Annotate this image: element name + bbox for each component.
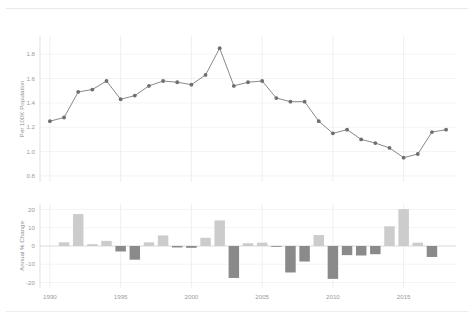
xtick-label: 1995 (114, 293, 128, 300)
xtick-label: 1990 (43, 293, 57, 300)
line-data-point (133, 94, 137, 98)
bar-ytick-label: -20 (26, 279, 36, 286)
line-data-point (105, 79, 109, 83)
line-data-point (345, 128, 349, 132)
line-data-point (359, 138, 363, 142)
bar-rect (285, 246, 295, 272)
bar-rect (87, 244, 97, 246)
bar-rect (342, 246, 352, 255)
bar-rect (144, 242, 154, 246)
bar-rect (299, 246, 309, 262)
xtick-label: 2015 (397, 293, 411, 300)
line-ytick-label: 1.6 (26, 75, 35, 82)
bar-ytick-label: 20 (28, 206, 35, 213)
line-data-point (90, 88, 94, 92)
bar-rect (398, 209, 408, 246)
line-data-point (289, 100, 293, 104)
line-data-point (317, 119, 321, 123)
xtick-label: 2005 (255, 293, 269, 300)
figure-container: 0.81.01.21.41.61.8Per 100K Population-20… (0, 0, 474, 320)
line-data-point (303, 100, 307, 104)
line-data-point (402, 156, 406, 160)
line-data-point (444, 128, 448, 132)
line-data-point (62, 116, 66, 120)
bar-rect (115, 246, 125, 251)
bar-rect (172, 246, 182, 247)
bar-y-axis-title: Annual % Change (18, 221, 25, 271)
line-data-point (76, 90, 80, 94)
bottom-divider-rule (6, 311, 468, 312)
line-ytick-label: 1.4 (26, 99, 35, 106)
line-data-point (274, 96, 278, 100)
bar-rect (384, 226, 394, 246)
line-data-point (416, 152, 420, 156)
line-ytick-label: 1.2 (26, 123, 35, 130)
line-ytick-label: 1.8 (26, 50, 35, 57)
line-data-point (430, 130, 434, 134)
bar-rect (130, 246, 140, 260)
top-divider-rule (6, 8, 468, 9)
bar-rect (59, 242, 69, 246)
line-data-point (246, 80, 250, 84)
line-y-axis-title: Per 100K Population (18, 80, 25, 137)
bar-rect (214, 220, 224, 246)
xtick-label: 2000 (185, 293, 199, 300)
bar-rect (158, 235, 168, 246)
bar-rect (427, 246, 437, 257)
line-data-point (204, 73, 208, 77)
line-data-point (232, 84, 236, 88)
line-ytick-label: 1.0 (26, 148, 35, 155)
bar-rect (186, 246, 196, 248)
line-data-point (373, 141, 377, 145)
bar-rect (413, 243, 423, 246)
line-data-point (190, 83, 194, 87)
line-data-point (161, 79, 165, 83)
line-data-point (175, 80, 179, 84)
line-ytick-label: 0.8 (26, 172, 35, 179)
line-data-point (119, 97, 123, 101)
bar-rect (101, 241, 111, 246)
bar-rect (356, 246, 366, 255)
bar-rect (229, 246, 239, 278)
bar-rect (200, 238, 210, 246)
line-data-point (331, 131, 335, 135)
bar-ytick-label: -10 (26, 260, 36, 267)
bar-ytick-label: 10 (28, 224, 35, 231)
bar-rect (328, 246, 338, 279)
bar-rect (314, 235, 324, 246)
line-data-point (260, 79, 264, 83)
line-data-point (388, 146, 392, 150)
bar-rect (73, 214, 83, 246)
bar-rect (257, 243, 267, 246)
bar-rect (271, 246, 281, 247)
bar-rect (370, 246, 380, 254)
line-data-point (48, 119, 52, 123)
bar-rect (243, 243, 253, 246)
line-data-point (218, 46, 222, 50)
dual-panel-chart: 0.81.01.21.41.61.8Per 100K Population-20… (0, 0, 474, 320)
bar-ytick-label: 0 (32, 242, 36, 249)
xtick-label: 2010 (326, 293, 340, 300)
line-data-point (147, 84, 151, 88)
